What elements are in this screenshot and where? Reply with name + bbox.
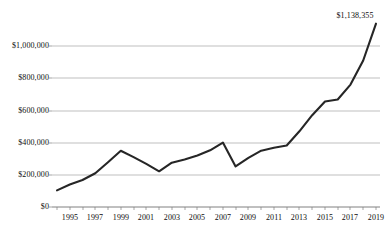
x-tick-label-2015: 2015	[317, 214, 333, 222]
x-tick-label-2017: 2017	[342, 214, 358, 222]
x-tick-label-1999: 1999	[113, 214, 129, 222]
x-tick-label-2009: 2009	[240, 214, 256, 222]
x-tick-label-2013: 2013	[291, 214, 307, 222]
x-tick-label-2003: 2003	[164, 214, 180, 222]
x-tick-label-2019: 2019	[368, 214, 384, 222]
x-tick-label-2007: 2007	[215, 214, 231, 222]
line-chart: $1,000,000 $800,000 $600,000 $400,000 $2…	[0, 0, 391, 234]
data-label-2019: $1,138,355	[337, 12, 374, 20]
x-tick-label-2011: 2011	[266, 214, 282, 222]
x-axis-labels: 1995 1997 1999 2001 2003 2005 2007 2009 …	[0, 0, 391, 234]
x-tick-label-2005: 2005	[189, 214, 205, 222]
x-tick-label-1995: 1995	[62, 214, 78, 222]
x-tick-label-2001: 2001	[138, 214, 154, 222]
x-tick-label-1997: 1997	[87, 214, 103, 222]
